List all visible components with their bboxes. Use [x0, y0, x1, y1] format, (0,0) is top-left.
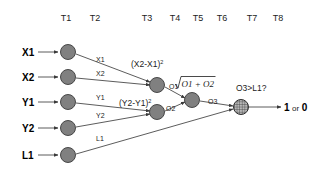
intermediate-label-o3: O3: [208, 98, 217, 105]
edge-label-l1: L1: [96, 135, 104, 142]
formula-x-difference: (X2-X1)2: [131, 59, 163, 69]
edge-y2-to-ydiff: [76, 114, 150, 127]
flow-edges: [76, 54, 281, 154]
intermediate-label-o1: O1: [169, 83, 178, 90]
output-value-true: 1: [284, 102, 290, 113]
input-node-y2: [61, 121, 76, 136]
sqrt-sum-node: [185, 93, 200, 108]
output-group: 1or0: [284, 102, 308, 113]
sqrt-operand-text: O1 + O2: [182, 79, 215, 89]
input-arrows: [38, 52, 58, 155]
input-label-y2: Y2: [22, 123, 35, 134]
x-difference-node: [150, 78, 165, 93]
input-label-x1: X1: [22, 47, 35, 58]
intermediate-label-o2: O2: [166, 105, 175, 112]
formula-y-difference-exponent: 2: [148, 98, 151, 104]
input-node-l1: [61, 148, 76, 163]
diagram-canvas: T1 T2 T3 T4 T5 T6 T7 T8: [0, 0, 323, 180]
sqrt-expression: O1 + O2: [176, 77, 216, 90]
input-label-x2: X2: [22, 72, 35, 83]
time-label-t3: T3: [142, 13, 153, 23]
edge-labels: X1 X2 Y1 Y2 L1: [96, 56, 105, 142]
comparison-expression: O3>L1?: [236, 83, 267, 93]
input-label-y1: Y1: [22, 97, 35, 108]
flow-diagram: T1 T2 T3 T4 T5 T6 T7 T8: [0, 0, 323, 180]
formula-y-difference-base: (Y2-Y1): [119, 98, 148, 108]
y-difference-node: [150, 105, 165, 120]
output-separator: or: [292, 104, 299, 113]
formula-x-difference-exponent: 2: [160, 59, 163, 65]
edge-label-x1: X1: [96, 56, 105, 63]
input-node-x1: [61, 45, 76, 60]
time-label-t6: T6: [217, 13, 228, 23]
output-expression: 1or0: [284, 102, 308, 113]
time-label-t5: T5: [193, 13, 204, 23]
input-label-l1: L1: [22, 150, 34, 161]
input-labels: X1 X2 Y1 Y2 L1: [22, 47, 35, 161]
formula-y-difference: (Y2-Y1)2: [119, 98, 151, 108]
input-node-x2: [61, 70, 76, 85]
input-nodes: [61, 45, 76, 163]
input-node-y1: [61, 95, 76, 110]
time-label-t8: T8: [273, 13, 284, 23]
time-label-t7: T7: [247, 13, 258, 23]
time-axis: T1 T2 T3 T4 T5 T6 T7 T8: [61, 13, 284, 23]
edge-x2-to-xdiff: [76, 78, 150, 85]
time-label-t2: T2: [90, 13, 101, 23]
edge-label-x2: X2: [96, 70, 105, 77]
output-value-false: 0: [302, 102, 308, 113]
comparator-node: [234, 100, 249, 115]
edge-label-y2: Y2: [96, 112, 105, 119]
edge-label-y1: Y1: [96, 94, 105, 101]
time-label-t4: T4: [170, 13, 181, 23]
time-label-t1: T1: [61, 13, 72, 23]
formula-x-difference-base: (X2-X1): [131, 59, 160, 69]
